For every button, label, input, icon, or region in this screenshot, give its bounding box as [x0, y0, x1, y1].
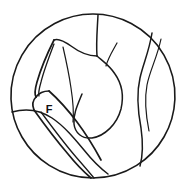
central-mass-outer-contour: [74, 56, 122, 138]
label-forceps: F: [46, 103, 53, 115]
figure-container: F: [0, 0, 186, 187]
endoscopic-view-drawing: F: [0, 0, 186, 187]
forceps-joint: [33, 97, 36, 110]
forceps-upper-jaw-tip: [36, 91, 49, 97]
mid-right-fold-contour: [106, 43, 117, 66]
forceps-shaft-ridge: [41, 112, 94, 178]
top-vertical-contour: [97, 15, 98, 56]
forceps-lower-jaw-bottom-edge: [34, 110, 91, 178]
central-mass-inner-contour: [54, 39, 97, 56]
right-lateral-outer-contour: [138, 33, 152, 166]
forceps-lower-jaw-top-edge: [49, 91, 101, 160]
lower-left-tissue-contour: [12, 110, 108, 174]
